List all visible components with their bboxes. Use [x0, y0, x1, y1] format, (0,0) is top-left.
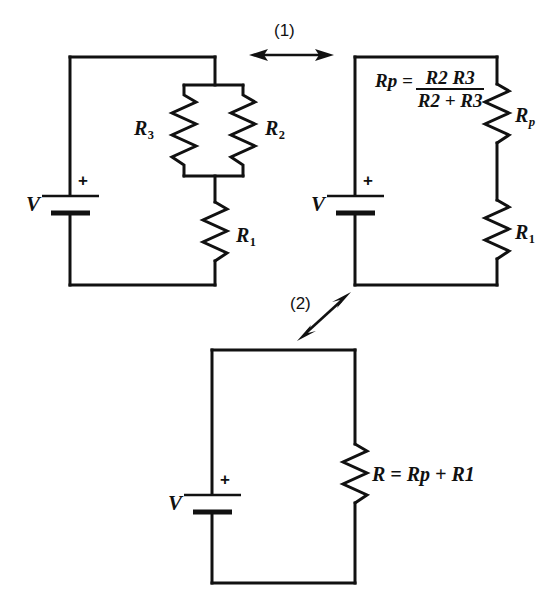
resistor-label-r1-original: R1: [236, 225, 256, 245]
resistor-label-r1-original-base: R: [236, 224, 249, 246]
resistor-r-total-symbol: [343, 444, 367, 503]
formula-num-2-base: R: [452, 67, 465, 88]
resistor-label-r2-base: R: [265, 117, 278, 139]
equation-rhs-2-sub: 1: [465, 463, 475, 485]
voltage-source-label-parallel: V: [311, 194, 325, 215]
resistor-label-r2-sub: 2: [278, 128, 285, 142]
resistor-label-rp-sub: p: [528, 115, 535, 129]
equation-rhs-1-sub: p: [420, 463, 430, 485]
resistor-rp-symbol: [485, 84, 509, 143]
resistor-r2-symbol: [231, 85, 255, 176]
formula-den-1-base: R: [418, 90, 431, 111]
battery-polarity-plus-total: +: [220, 471, 230, 488]
battery-polarity-plus-parallel: +: [363, 172, 373, 189]
equation-rhs-2-base: R: [452, 463, 465, 485]
formula-num-1-sub: 2: [438, 67, 448, 88]
circuit-original-group: [42, 57, 255, 285]
resistor-label-r1-parallel-sub: 1: [528, 232, 535, 246]
parallel-resistance-formula: Rp = R2 R3 R2 + R3: [375, 68, 484, 110]
formula-den-2-base: R: [460, 90, 473, 111]
formula-lead-sub: p: [388, 70, 398, 91]
formula-lead-base: R: [375, 70, 388, 91]
resistor-label-r1-parallel-base: R: [515, 221, 528, 243]
figure-canvas: V + R3 R2 R1 (1) V + Rp R1 Rp = R2 R3 R2…: [0, 0, 546, 598]
formula-den-2-sub: 3: [473, 90, 483, 111]
step-1-arrow: [249, 49, 334, 61]
voltage-source-label-original: V: [26, 194, 40, 215]
formula-denominator: R2 + R3: [416, 88, 485, 110]
formula-num-1-base: R: [426, 67, 439, 88]
formula-fraction: R2 R3 R2 + R3: [416, 68, 485, 110]
equation-equals: =: [390, 463, 401, 485]
step-2-label: (2): [290, 295, 311, 312]
resistor-label-r1-parallel: R1: [515, 222, 535, 242]
formula-num-2-sub: 3: [465, 67, 475, 88]
step-1-label: (1): [274, 22, 295, 39]
battery-polarity-plus-original: +: [78, 172, 88, 189]
formula-den-plus: +: [445, 90, 456, 111]
resistor-label-r3-base: R: [134, 117, 147, 139]
total-resistance-equation: R = Rp + R1: [372, 464, 475, 484]
step-2-arrow-shaft: [307, 301, 341, 332]
equation-lhs: R: [372, 463, 385, 485]
resistor-r1-original-symbol: [203, 202, 227, 261]
voltage-source-label-total: V: [168, 493, 182, 514]
circuit-total-group: [184, 350, 367, 583]
resistor-label-rp-base: R: [515, 104, 528, 126]
resistor-label-rp: Rp: [515, 105, 535, 125]
resistor-label-r3-sub: 3: [147, 128, 154, 142]
resistor-label-r3: R3: [134, 118, 154, 138]
resistor-r1-parallel-symbol: [485, 200, 509, 259]
equation-rhs-1-base: R: [407, 463, 420, 485]
formula-equals: =: [402, 70, 413, 91]
equation-plus: +: [435, 463, 446, 485]
formula-lead: Rp =: [375, 68, 413, 90]
resistor-r3-symbol: [172, 85, 196, 176]
formula-numerator: R2 R3: [424, 68, 477, 88]
resistor-label-r2: R2: [265, 118, 285, 138]
formula-den-1-sub: 2: [430, 90, 440, 111]
resistor-label-r1-original-sub: 1: [249, 235, 256, 249]
